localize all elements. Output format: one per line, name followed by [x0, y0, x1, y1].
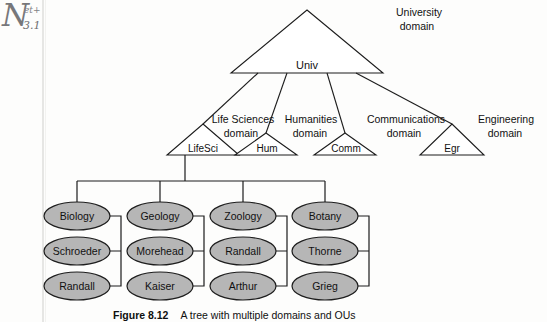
univ-triangle-label: Univ: [296, 59, 319, 71]
comm-domain-label-line1: Communications: [367, 113, 445, 125]
ou-column-botany: Botany Thorne Grieg: [292, 202, 369, 300]
univ-domain-label-line2: domain: [400, 20, 435, 32]
ou-node-geology: Geology: [127, 202, 193, 230]
domain-tree-diagram: Univ University domain LifeSci Life Scie…: [0, 0, 547, 322]
egr-domain-label-line2: domain: [488, 127, 523, 139]
ou-node-botany: Botany: [292, 202, 358, 230]
ou-label-grieg: Grieg: [312, 280, 338, 292]
ou-column-zoology: Zoology Randall Arthur: [210, 202, 287, 300]
comm-triangle-label: Comm: [331, 143, 360, 154]
figure-page: N et+ 3.1 Univ University domain LifeSci…: [0, 0, 547, 322]
hum-domain-label-line1: Humanities: [285, 113, 338, 125]
ou-node-zoology: Zoology: [210, 202, 276, 230]
ou-node-biology: Biology: [44, 202, 110, 230]
ou-label-randall-1: Randall: [59, 280, 95, 292]
lifesci-domain-label-line1: Life Sciences: [212, 113, 274, 125]
ou-node-randall-1: Randall: [44, 272, 110, 300]
lifesci-domain-label-line2: domain: [224, 127, 259, 139]
ou-column-geology: Geology Morehead Kaiser: [127, 202, 204, 300]
ou-label-kaiser: Kaiser: [145, 280, 175, 292]
hum-triangle-label: Hum: [256, 143, 277, 154]
figure-caption: Figure 8.12A tree with multiple domains …: [113, 309, 356, 321]
node-egr: Egr: [420, 124, 484, 155]
egr-triangle-label: Egr: [444, 143, 460, 154]
ou-node-randall-2: Randall: [210, 237, 276, 265]
ou-label-biology: Biology: [60, 210, 95, 222]
ou-label-thorne: Thorne: [308, 245, 341, 257]
ou-label-schroeder: Schroeder: [53, 245, 102, 257]
figure-caption-number: Figure 8.12: [113, 309, 168, 321]
figure-caption-text: A tree with multiple domains and OUs: [180, 309, 355, 321]
comm-domain-label-line2: domain: [387, 127, 422, 139]
ou-label-randall-2: Randall: [225, 245, 261, 257]
ou-label-zoology: Zoology: [224, 210, 262, 222]
ou-column-biology: Biology Schroeder Randall: [44, 202, 121, 300]
node-univ: Univ: [231, 10, 383, 73]
egr-domain-label-line1: Engineering: [478, 113, 534, 125]
ou-node-grieg: Grieg: [292, 272, 358, 300]
ou-label-geology: Geology: [140, 210, 180, 222]
ou-node-kaiser: Kaiser: [127, 272, 193, 300]
ou-label-arthur: Arthur: [229, 280, 258, 292]
ou-node-thorne: Thorne: [292, 237, 358, 265]
hum-domain-label-line2: domain: [293, 127, 328, 139]
ou-label-morehead: Morehead: [136, 245, 183, 257]
lifesci-triangle-label: LifeSci: [188, 143, 218, 154]
ou-label-botany: Botany: [309, 210, 342, 222]
ou-node-schroeder: Schroeder: [44, 237, 110, 265]
ou-node-morehead: Morehead: [127, 237, 193, 265]
ou-node-arthur: Arthur: [210, 272, 276, 300]
univ-domain-label-line1: University: [396, 6, 443, 18]
